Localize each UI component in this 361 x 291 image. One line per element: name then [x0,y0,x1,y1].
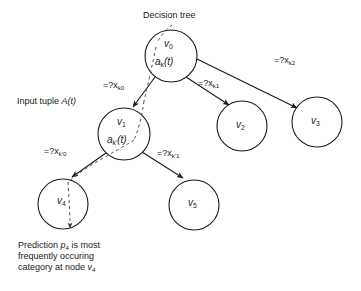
node-label-v0: v0 [164,38,173,49]
node-label-v3: v3 [311,115,320,126]
traversal-path-segment-v0-v1 [134,101,144,140]
input-tuple-value: A(t) [62,96,77,106]
figure-canvas: Decision tree Input tuple A(t) v0 ak(t) … [0,0,361,291]
node-label-v1: v1 [117,116,126,127]
edge-label-v1-v4: =?xk'0 [44,146,66,156]
node-attr-v1: ak'(t) [107,134,127,145]
traversal-path-segment-v4-prediction [68,182,70,228]
node-label-v4: v4 [57,195,66,206]
edge-label-v0-v3: =?xk2 [274,55,295,65]
node-attr-v0: ak(t) [155,56,173,67]
caption-line-2: frequently occuring [18,251,94,261]
caption-line-1: Prediction p4 is most [18,240,100,250]
input-tuple-prefix: Input tuple [17,96,62,106]
edge-label-v1-v5: =?xk'1 [157,148,179,158]
edge-v1-v4[interactable] [72,153,106,177]
edge-label-v0-v2: =?xk1 [198,78,219,88]
edge-label-v0-v1: =?xk0 [103,80,124,90]
node-label-v5: v5 [188,197,197,208]
tree-edges [72,59,297,178]
input-tuple-label: Input tuple A(t) [17,96,76,107]
figure-title: Decision tree [143,10,196,21]
node-label-v2: v2 [236,119,245,130]
caption-line-3: category at node v4 [18,262,95,272]
prediction-caption: Prediction p4 is most frequently occurin… [18,240,178,273]
